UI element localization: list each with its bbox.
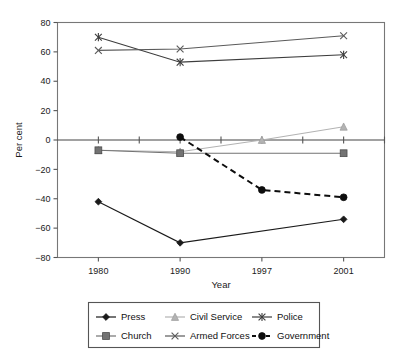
legend-label: Civil Service	[190, 311, 242, 322]
chart-figure: 806040200−20−40−60−80 1980199019972001 P…	[0, 0, 408, 358]
y-tick-label: −40	[35, 194, 50, 204]
y-tick-label: −20	[35, 165, 50, 175]
y-tick-label: 40	[40, 76, 50, 86]
legend-label: Government	[277, 330, 330, 341]
legend-label: Press	[121, 311, 146, 322]
legend-label: Church	[121, 330, 152, 341]
legend-marker-circle-icon	[259, 333, 266, 340]
legend-label: Police	[277, 311, 303, 322]
data-point	[177, 134, 184, 141]
legend-label: Armed Forces	[190, 330, 250, 341]
x-axis-title: Year	[211, 279, 230, 290]
legend-marker-square-icon	[103, 333, 110, 340]
data-point	[340, 150, 347, 157]
x-tick-label: 1980	[88, 266, 108, 276]
y-tick-label: 60	[40, 47, 50, 57]
x-tick-label: 1997	[252, 266, 272, 276]
y-tick-label: 80	[40, 18, 50, 28]
data-point	[340, 194, 347, 201]
data-point	[95, 147, 102, 154]
line-chart-svg: 806040200−20−40−60−80 1980199019972001 P…	[0, 0, 408, 358]
y-tick-label: 20	[40, 106, 50, 116]
x-tick-label: 1990	[170, 266, 190, 276]
x-tick-label: 2001	[334, 266, 354, 276]
data-point	[177, 150, 184, 157]
y-tick-label: −80	[35, 253, 50, 263]
y-tick-label: 0	[45, 135, 50, 145]
y-tick-label: −60	[35, 223, 50, 233]
data-point	[258, 187, 265, 194]
y-axis-title: Per cent	[13, 122, 24, 158]
